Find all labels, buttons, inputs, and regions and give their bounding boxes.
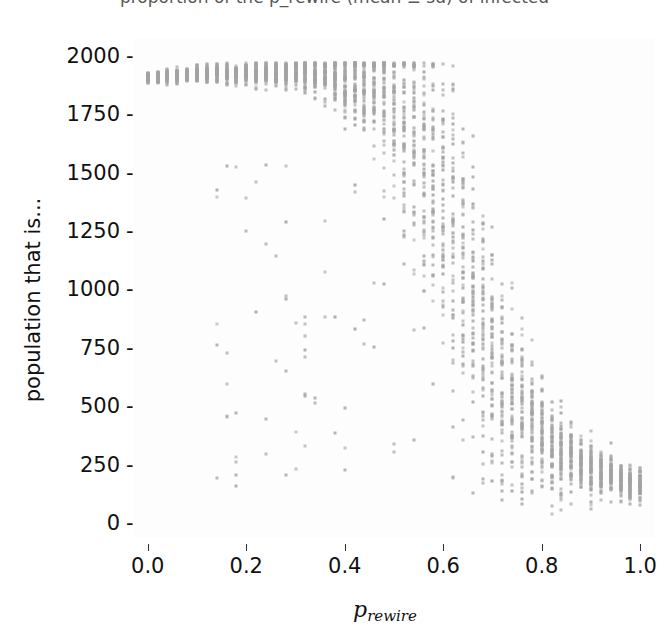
x-tick-label: 0.0 bbox=[113, 556, 183, 577]
x-tick-mark bbox=[345, 544, 346, 551]
x-tick-mark bbox=[542, 544, 543, 551]
scatter-plot-figure: proportion of the p_rewire (mean ± sd) o… bbox=[0, 0, 669, 644]
plot-area bbox=[133, 38, 655, 538]
scatter-points-canvas bbox=[133, 38, 655, 538]
x-tick-mark bbox=[246, 544, 247, 551]
x-tick-label: 0.4 bbox=[310, 556, 380, 577]
x-tick-label: 1.0 bbox=[605, 556, 669, 577]
x-tick-label: 0.2 bbox=[211, 556, 281, 577]
x-tick-label: 0.8 bbox=[507, 556, 577, 577]
x-tick-mark bbox=[443, 544, 444, 551]
x-tick-label: 0.6 bbox=[408, 556, 478, 577]
x-tick-mark bbox=[640, 544, 641, 551]
x-tick-mark bbox=[148, 544, 149, 551]
